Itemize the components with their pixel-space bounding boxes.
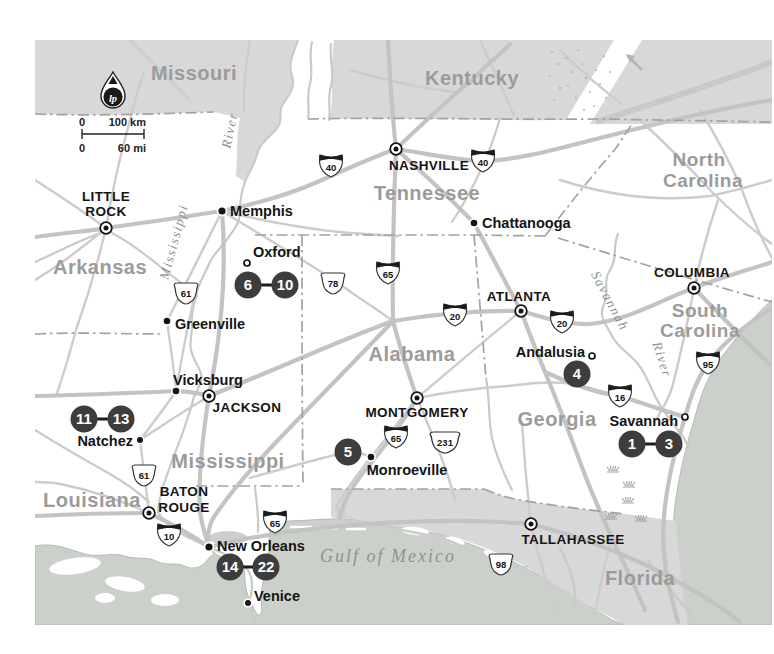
city-chattanooga: Chattanooga [469, 215, 572, 231]
svg-text:Memphis: Memphis [230, 203, 293, 219]
svg-text:22: 22 [258, 558, 275, 575]
state-label-tennessee: Tennessee [374, 182, 480, 204]
scale-mi-zero: 0 [79, 142, 85, 154]
svg-text:14: 14 [222, 558, 239, 575]
svg-text:COLUMBIA: COLUMBIA [654, 265, 730, 280]
svg-text:Monroeville: Monroeville [367, 462, 448, 478]
state-label-louisiana: Louisiana [43, 489, 141, 511]
state-label-alabama: Alabama [369, 343, 456, 365]
svg-text:13: 13 [113, 410, 130, 427]
svg-text:20: 20 [450, 311, 461, 322]
svg-text:ROCK: ROCK [85, 204, 126, 219]
svg-text:NASHVILLE: NASHVILLE [389, 158, 469, 173]
city-greenville: Greenville [162, 316, 245, 332]
svg-text:New Orleans: New Orleans [217, 538, 305, 554]
scale-km-zero: 0 [79, 116, 85, 128]
svg-text:Savannah: Savannah [610, 413, 679, 429]
svg-text:65: 65 [391, 433, 402, 444]
svg-text:5: 5 [344, 443, 352, 460]
louisiana-marsh-island [95, 593, 115, 603]
svg-text:61: 61 [181, 288, 192, 299]
state-label-south-carolina-1: South [672, 300, 728, 321]
svg-text:98: 98 [496, 559, 507, 570]
svg-text:3: 3 [665, 435, 673, 452]
svg-text:Natchez: Natchez [77, 433, 133, 449]
state-label-florida: Florida [605, 567, 676, 589]
state-label-mississippi: Mississippi [171, 450, 284, 472]
city-andalusia: Andalusia [516, 344, 595, 360]
svg-text:Oxford: Oxford [253, 244, 301, 260]
state-label-georgia: Georgia [517, 408, 596, 430]
state-label-north-carolina-2: Carolina [663, 170, 743, 191]
state-label-kentucky: Kentucky [425, 67, 519, 89]
svg-text:11: 11 [76, 410, 92, 427]
svg-text:MONTGOMERY: MONTGOMERY [365, 405, 468, 420]
city-new-orleans: New Orleans [204, 538, 305, 554]
svg-text:ROUGE: ROUGE [158, 500, 210, 515]
svg-text:BATON: BATON [160, 484, 209, 499]
scale-mi-label: 60 mi [118, 142, 146, 154]
svg-text:TALLAHASSEE: TALLAHASSEE [521, 532, 624, 547]
svg-text:ATLANTA: ATLANTA [487, 289, 552, 304]
svg-text:JACKSON: JACKSON [213, 400, 282, 415]
svg-text:61: 61 [139, 470, 150, 481]
svg-text:78: 78 [328, 278, 339, 289]
svg-text:20: 20 [557, 318, 568, 329]
louisiana-marsh-island [151, 594, 179, 606]
svg-text:Greenville: Greenville [175, 316, 245, 332]
svg-text:10: 10 [277, 276, 294, 293]
svg-text:65: 65 [270, 518, 281, 529]
svg-text:Andalusia: Andalusia [516, 344, 586, 360]
svg-text:40: 40 [326, 162, 337, 173]
deep-south-regional-map: lp 0 100 km 0 60 mi 40 40 65 65 65 20 20… [0, 0, 774, 654]
state-label-arkansas: Arkansas [53, 256, 147, 278]
svg-text:Chattanooga: Chattanooga [482, 215, 572, 231]
svg-text:Venice: Venice [254, 588, 300, 604]
gulf-of-mexico-label: Gulf of Mexico [320, 546, 456, 566]
site-marker-4: 4 [564, 361, 591, 388]
map-canvas: lp 0 100 km 0 60 mi 40 40 65 65 65 20 20… [0, 0, 774, 654]
svg-text:1: 1 [628, 435, 636, 452]
svg-text:16: 16 [615, 392, 626, 403]
svg-text:4: 4 [573, 365, 582, 382]
svg-text:6: 6 [244, 276, 252, 293]
city-savannah: Savannah [610, 413, 689, 429]
scale-km-label: 100 km [109, 116, 147, 128]
state-label-missouri: Missouri [151, 62, 237, 84]
svg-text:LITTLE: LITTLE [82, 189, 130, 204]
svg-text:65: 65 [383, 269, 394, 280]
site-marker-5: 5 [335, 439, 362, 466]
svg-text:Vicksburg: Vicksburg [173, 372, 243, 388]
logo-text: lp [109, 93, 117, 104]
svg-text:95: 95 [703, 359, 714, 370]
svg-text:40: 40 [478, 157, 489, 168]
svg-text:10: 10 [164, 531, 175, 542]
state-label-north-carolina-1: North [672, 149, 725, 170]
state-label-south-carolina-2: Carolina [660, 320, 740, 341]
svg-text:231: 231 [437, 437, 454, 448]
